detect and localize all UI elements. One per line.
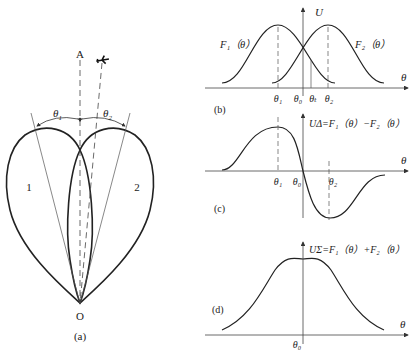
curve-f1-label: F₁（θ） xyxy=(219,39,255,50)
tick-c-0: θ₁ xyxy=(274,176,282,187)
y-label-b: U xyxy=(315,6,324,18)
panel-b: U θ F₁（θ） F₂（θ） θ₁ θ₀ θₜ θ₂ (b) xyxy=(205,6,408,116)
origin-label: O xyxy=(76,310,84,322)
caption-b: (b) xyxy=(214,104,226,116)
axis-label-a: A xyxy=(76,48,84,60)
tick-b-0: θ₁ xyxy=(274,93,282,104)
curve-difference xyxy=(222,127,385,218)
beam-axis-2 xyxy=(80,113,130,304)
lobe-2 xyxy=(68,128,154,303)
tick-c-2: θ₂ xyxy=(329,176,338,187)
theta1-label: θ1 xyxy=(53,107,62,122)
diagram-canvas: A θ1 θ2 1 2 O (a) U θ F₁（θ） F₂（θ） θ₁ θ₀ … xyxy=(0,0,415,352)
tick-b-1: θ₀ xyxy=(294,93,303,104)
airplane-icon xyxy=(96,55,109,65)
tick-b-2: θₜ xyxy=(309,93,317,104)
x-label-c: θ xyxy=(401,154,407,166)
x-label-d: θ xyxy=(400,318,406,330)
caption-a: (a) xyxy=(74,330,87,343)
lobe-2-label: 2 xyxy=(134,181,140,193)
tick-c-1: θ₀ xyxy=(293,176,302,187)
panel-c: UΔ=F₁（θ）−F₂（θ） θ θ₁ θ₀ θ₂ (c) xyxy=(205,114,408,220)
panel-a: A θ1 θ2 1 2 O (a) xyxy=(6,48,153,343)
panel-d: UΣ=F₁（θ）+F₂（θ） θ θ₀ (d) xyxy=(205,242,408,350)
x-label-b: θ xyxy=(401,71,407,83)
theta2-label: θ2 xyxy=(103,107,112,122)
beam-axis-1 xyxy=(31,113,80,304)
lobe-1-label: 1 xyxy=(26,181,32,193)
formula-c: UΔ=F₁（θ）−F₂（θ） xyxy=(309,118,405,129)
caption-c: (c) xyxy=(214,203,225,215)
lobe-1 xyxy=(6,128,92,303)
curve-f2-label: F₂（θ） xyxy=(354,39,390,50)
caption-d: (d) xyxy=(212,304,224,316)
curve-f1 xyxy=(222,25,335,83)
formula-d: UΣ=F₁（θ）+F₂（θ） xyxy=(309,244,405,255)
tick-b-3: θ₂ xyxy=(325,93,334,104)
tick-d-0: θ₀ xyxy=(293,339,302,350)
target-line xyxy=(80,63,102,304)
